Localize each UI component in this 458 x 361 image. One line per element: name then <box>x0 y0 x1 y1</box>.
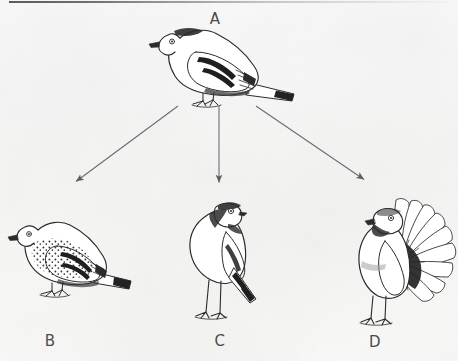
arrow-a-to-d <box>256 106 364 180</box>
bird-a-perch-shadow <box>192 105 221 107</box>
bird-c-perch-shadow <box>195 317 227 319</box>
node-label-a: A <box>203 12 227 27</box>
arrow-a-to-b <box>76 106 178 182</box>
bird-a-rock-pigeon <box>149 28 294 107</box>
bird-d-pupil <box>390 217 392 219</box>
arrow-group <box>76 106 364 183</box>
figure-canvas <box>0 0 458 361</box>
bird-b-beak <box>8 235 18 241</box>
bird-b-pupil <box>28 233 30 235</box>
bird-d-beak <box>365 219 375 225</box>
bird-c-pouter-pigeon <box>190 202 256 319</box>
bird-a-pupil <box>171 41 173 43</box>
bird-c-legs <box>196 280 226 319</box>
pigeon-selection-figure: A B C D <box>0 0 458 361</box>
bird-d-fantail-pigeon <box>359 199 456 326</box>
bird-d-perch-shadow <box>360 323 392 325</box>
node-label-d: D <box>363 335 387 350</box>
bird-c-pupil <box>230 210 232 212</box>
node-label-c: C <box>208 334 232 349</box>
bird-a-beak <box>149 42 159 48</box>
node-label-b: B <box>38 334 62 349</box>
bird-b-speckled-breed <box>8 222 131 297</box>
bird-c-beak <box>239 212 247 216</box>
bird-d-legs <box>361 296 391 325</box>
